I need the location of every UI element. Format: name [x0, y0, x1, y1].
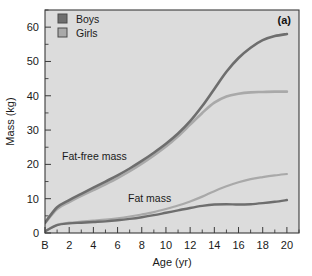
y-tick-label: 40: [27, 90, 39, 102]
y-tick-label: 20: [27, 158, 39, 170]
x-tick-label: 6: [115, 239, 121, 251]
x-tick-label: 8: [139, 239, 145, 251]
y-tick-label: 50: [27, 55, 39, 67]
growth-chart-figure: 0102030405060B2468101214161820Age (yr)Ma…: [0, 0, 312, 276]
x-tick-label: 16: [232, 239, 244, 251]
x-tick-label: 10: [160, 239, 172, 251]
fat-free-mass-label: Fat-free mass: [62, 150, 127, 162]
chart-svg: 0102030405060B2468101214161820Age (yr)Ma…: [0, 0, 312, 276]
legend-swatch-girls: [58, 28, 67, 37]
x-tick-label: 20: [281, 239, 293, 251]
x-tick-label: 2: [66, 239, 72, 251]
x-tick-label: 14: [208, 239, 220, 251]
x-tick-label: 12: [184, 239, 196, 251]
legend-label-boys: Boys: [76, 13, 99, 25]
legend-swatch-boys: [58, 14, 67, 23]
y-axis-title: Mass (kg): [4, 97, 16, 145]
y-tick-label: 10: [27, 193, 39, 205]
y-tick-label: 0: [33, 227, 39, 239]
figure-panel-a: 0102030405060B2468101214161820Age (yr)Ma…: [0, 0, 312, 276]
x-axis-title: Age (yr): [152, 256, 191, 268]
panel-label: (a): [278, 14, 292, 26]
x-tick-label: 18: [257, 239, 269, 251]
legend-label-girls: Girls: [76, 27, 98, 39]
plot-background: [45, 10, 299, 233]
x-tick-label: 4: [90, 239, 96, 251]
y-tick-label: 30: [27, 124, 39, 136]
x-tick-label: B: [41, 239, 48, 251]
fat-mass-label: Fat mass: [128, 192, 171, 204]
y-tick-label: 60: [27, 21, 39, 33]
